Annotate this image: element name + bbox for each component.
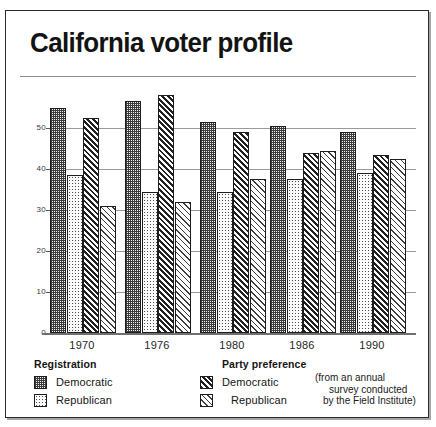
- bar-1986-dark-checker: [270, 126, 286, 333]
- bar-group-1990: 1990: [340, 83, 404, 333]
- bar-1976-light-dot: [142, 192, 158, 333]
- legend-item: Democratic: [200, 373, 306, 391]
- bar-1990-light-dot: [357, 173, 373, 333]
- bar-1980-light-diagonal: [250, 179, 266, 333]
- legend-registration: Registration Democratic Republican: [34, 358, 113, 409]
- bar-1986-light-dot: [287, 179, 303, 333]
- bar-1986-dark-diagonal: [303, 153, 319, 333]
- y-axis-tick-label: 20: [20, 246, 46, 255]
- chart-plot-area: 01020304050 19701976198019861990: [20, 83, 416, 339]
- bar-1986-light-diagonal: [320, 151, 336, 333]
- x-axis-tick-label: 1990: [327, 339, 417, 351]
- legend-label: Democratic: [56, 376, 113, 388]
- legend-label: Republican: [56, 394, 112, 406]
- chart-frame: California voter profile 01020304050 197…: [5, 10, 429, 418]
- bar-1990-dark-diagonal: [373, 155, 389, 333]
- bar-1980-light-dot: [217, 192, 233, 333]
- legend-note-line-2: survey conducted: [315, 384, 436, 396]
- bar-group-1976: 1976: [125, 83, 189, 333]
- swatch-party-republican-icon: [200, 394, 213, 407]
- legend-party-preference-heading: Party preference: [200, 358, 306, 370]
- legend-note-line-3: by the Field Institute): [315, 395, 436, 407]
- bar-1970-light-dot: [67, 175, 83, 333]
- y-axis-tick-label: 40: [20, 164, 46, 173]
- y-axis-tick-label: 30: [20, 205, 46, 214]
- chart-legend: Registration Democratic Republican Party…: [20, 358, 420, 418]
- bar-1970-dark-checker: [50, 108, 66, 334]
- legend-note-line-1: (from an annual: [315, 372, 436, 384]
- legend-label: Democratic: [222, 376, 279, 388]
- bar-1980-dark-checker: [200, 122, 216, 333]
- title-divider: [20, 76, 416, 77]
- legend-item: Republican: [34, 391, 113, 409]
- axis-baseline: [42, 333, 416, 335]
- legend-item: Republican: [200, 391, 306, 409]
- bar-1990-dark-checker: [340, 132, 356, 333]
- y-axis-tick-label: 10: [20, 287, 46, 296]
- bar-1970-light-diagonal: [100, 206, 116, 333]
- bar-1980-dark-diagonal: [233, 132, 249, 333]
- legend-label: Republican: [222, 394, 287, 406]
- legend-registration-heading: Registration: [34, 358, 113, 370]
- page-title: California voter profile: [30, 28, 293, 59]
- bar-group-1986: 1986: [270, 83, 334, 333]
- legend-party-preference: Party preference Democratic Republican: [200, 358, 306, 409]
- bar-group-1980: 1980: [200, 83, 264, 333]
- swatch-registration-republican-icon: [34, 394, 47, 407]
- bar-group-1970: 1970: [50, 83, 114, 333]
- bar-1976-dark-checker: [125, 101, 141, 333]
- bar-1976-light-diagonal: [175, 202, 191, 333]
- bar-1990-light-diagonal: [390, 159, 406, 333]
- bar-1976-dark-diagonal: [158, 95, 174, 333]
- swatch-party-democratic-icon: [200, 376, 213, 389]
- y-axis-tick-label: 50: [20, 123, 46, 132]
- bar-1970-dark-diagonal: [83, 118, 99, 333]
- legend-note: (from an annual survey conducted by the …: [315, 372, 436, 407]
- legend-item: Democratic: [34, 373, 113, 391]
- swatch-registration-democratic-icon: [34, 376, 47, 389]
